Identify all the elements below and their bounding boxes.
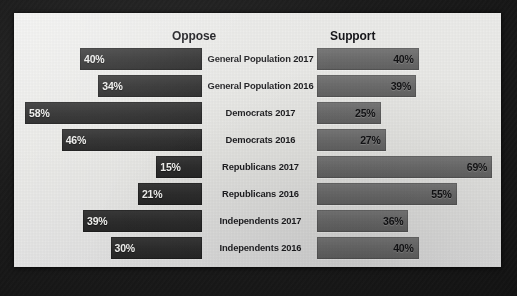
oppose-value-label: 58% xyxy=(25,107,49,119)
support-track: 55% xyxy=(317,183,501,205)
oppose-bar: 39% xyxy=(83,210,202,232)
oppose-bar: 21% xyxy=(138,183,202,205)
column-header-support: Support xyxy=(330,29,375,43)
chart-row: 34%General Population 201639% xyxy=(14,73,501,100)
oppose-bar: 58% xyxy=(25,102,202,124)
chart-row: 58%Democrats 201725% xyxy=(14,100,501,127)
category-label: Democrats 2017 xyxy=(204,100,317,126)
support-bar: 40% xyxy=(317,48,419,70)
support-bar: 40% xyxy=(317,237,419,259)
chart-row: 46%Democrats 201627% xyxy=(14,127,501,154)
oppose-track: 30% xyxy=(14,237,202,259)
chart-row: 39%Independents 201736% xyxy=(14,208,501,235)
support-value-label: 55% xyxy=(431,188,456,200)
oppose-value-label: 34% xyxy=(98,80,122,92)
support-value-label: 36% xyxy=(383,215,408,227)
support-value-label: 25% xyxy=(355,107,380,119)
support-bar: 25% xyxy=(317,102,381,124)
oppose-track: 39% xyxy=(14,210,202,232)
chart-rows: 40%General Population 201740%34%General … xyxy=(14,46,501,262)
oppose-bar: 34% xyxy=(98,75,202,97)
support-bar: 36% xyxy=(317,210,408,232)
support-bar: 39% xyxy=(317,75,416,97)
chart-row: 21%Republicans 201655% xyxy=(14,181,501,208)
support-track: 40% xyxy=(317,48,501,70)
support-track: 27% xyxy=(317,129,501,151)
chart-row: 15%Republicans 201769% xyxy=(14,154,501,181)
photographed-chart: Oppose Support 40%General Population 201… xyxy=(0,0,517,296)
category-label: General Population 2016 xyxy=(204,73,317,99)
category-label: Republicans 2017 xyxy=(204,154,317,180)
support-value-label: 69% xyxy=(467,161,492,173)
support-value-label: 40% xyxy=(393,242,418,254)
support-bar: 55% xyxy=(317,183,457,205)
chart-row: 30%Independents 201640% xyxy=(14,235,501,262)
oppose-track: 58% xyxy=(14,102,202,124)
oppose-value-label: 39% xyxy=(83,215,107,227)
chart-panel: Oppose Support 40%General Population 201… xyxy=(14,13,501,267)
support-value-label: 40% xyxy=(393,53,418,65)
oppose-value-label: 21% xyxy=(138,188,162,200)
oppose-track: 21% xyxy=(14,183,202,205)
oppose-value-label: 15% xyxy=(156,161,180,173)
support-bar: 69% xyxy=(317,156,492,178)
oppose-track: 34% xyxy=(14,75,202,97)
category-label: Democrats 2016 xyxy=(204,127,317,153)
oppose-track: 15% xyxy=(14,156,202,178)
oppose-bar: 46% xyxy=(62,129,202,151)
support-value-label: 39% xyxy=(391,80,416,92)
support-track: 25% xyxy=(317,102,501,124)
support-track: 36% xyxy=(317,210,501,232)
oppose-bar: 30% xyxy=(111,237,203,259)
category-label: General Population 2017 xyxy=(204,46,317,72)
support-track: 69% xyxy=(317,156,501,178)
category-label: Republicans 2016 xyxy=(204,181,317,207)
chart-row: 40%General Population 201740% xyxy=(14,46,501,73)
support-bar: 27% xyxy=(317,129,386,151)
category-label: Independents 2016 xyxy=(204,235,317,261)
support-track: 40% xyxy=(317,237,501,259)
category-label: Independents 2017 xyxy=(204,208,317,234)
oppose-value-label: 46% xyxy=(62,134,86,146)
oppose-value-label: 40% xyxy=(80,53,104,65)
column-header-oppose: Oppose xyxy=(172,29,216,43)
oppose-track: 46% xyxy=(14,129,202,151)
oppose-value-label: 30% xyxy=(111,242,135,254)
support-track: 39% xyxy=(317,75,501,97)
oppose-bar: 40% xyxy=(80,48,202,70)
oppose-bar: 15% xyxy=(156,156,202,178)
support-value-label: 27% xyxy=(360,134,385,146)
oppose-track: 40% xyxy=(14,48,202,70)
